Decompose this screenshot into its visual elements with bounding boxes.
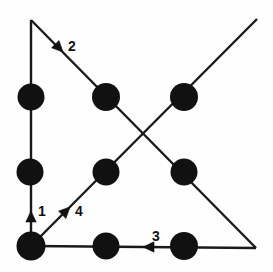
node-right-middle <box>171 159 198 186</box>
edge-label-4: 4 <box>75 203 83 219</box>
edge-label-3: 3 <box>152 228 160 244</box>
node-center-bottom <box>93 233 120 260</box>
diagram-canvas: 1234 <box>0 0 273 272</box>
node-center-top <box>92 83 120 111</box>
diagram-background <box>0 0 273 272</box>
edge-label-2: 2 <box>68 38 76 54</box>
node-center-middle <box>93 159 120 186</box>
node-left-top <box>18 84 45 111</box>
node-left-bottom <box>17 232 46 261</box>
node-left-middle <box>17 159 44 186</box>
diagram-root: 1234 <box>0 0 273 272</box>
edge-label-1: 1 <box>38 203 46 219</box>
node-right-top <box>170 83 198 111</box>
node-right-bottom <box>170 232 198 260</box>
